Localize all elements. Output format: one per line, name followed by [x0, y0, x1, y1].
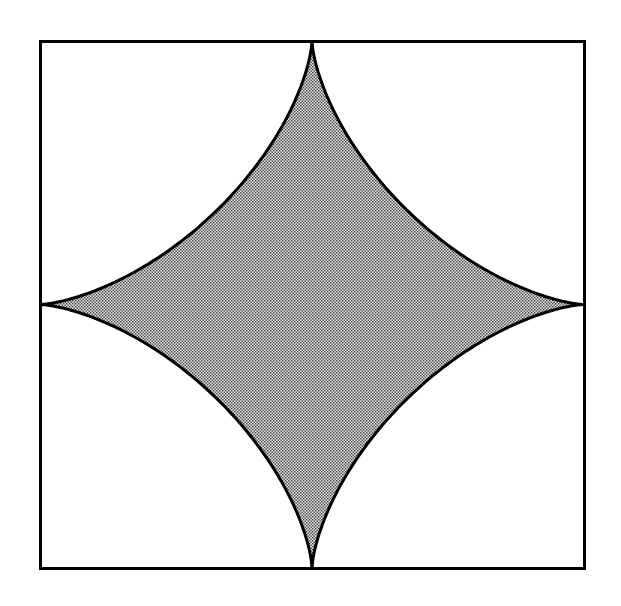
astroid-square-diagram: Astroid inscribed in a square A square o…: [0, 0, 621, 606]
figure-canvas: Astroid inscribed in a square A square o…: [0, 0, 621, 606]
